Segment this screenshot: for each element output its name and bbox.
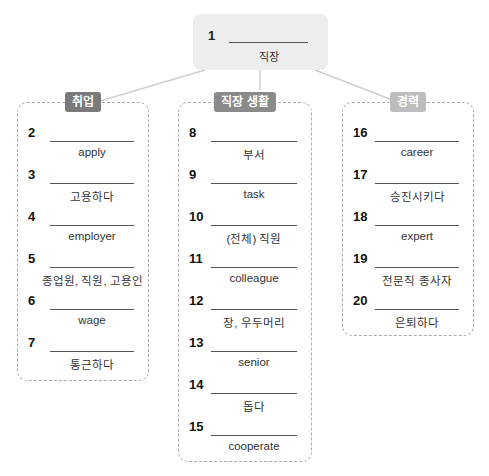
answer-blank[interactable] (211, 141, 297, 142)
vocab-item: 2 apply (18, 125, 148, 165)
item-hint: 전문직 종사자 (375, 272, 459, 288)
vocab-item: 6 wage (18, 293, 148, 333)
vocab-item: 11 colleague (179, 251, 311, 291)
item-number: 20 (353, 293, 367, 308)
item-number: 16 (353, 125, 367, 140)
item-number: 18 (353, 209, 367, 224)
item-number: 8 (189, 125, 196, 140)
answer-blank[interactable] (50, 309, 134, 310)
item-hint: wage (50, 314, 134, 326)
item-hint: 은퇴하다 (375, 314, 459, 330)
answer-blank[interactable] (211, 225, 297, 226)
vocab-item: 5 종업원, 직원, 고용인 (18, 251, 148, 291)
group-career: 경력 16 career 17 승진시키다 18 expert 19 전문직 종… (342, 102, 474, 336)
item-number: 9 (189, 167, 196, 182)
item-number: 7 (28, 335, 35, 350)
vocab-item: 12 장, 우두머리 (179, 293, 311, 333)
item-hint: career (375, 146, 459, 158)
answer-blank[interactable] (50, 183, 134, 184)
answer-blank[interactable] (375, 267, 459, 268)
item-number: 1 (208, 28, 215, 43)
item-hint: cooperate (211, 440, 297, 452)
vocab-item: 4 employer (18, 209, 148, 249)
answer-blank[interactable] (50, 225, 134, 226)
answer-blank[interactable] (50, 141, 134, 142)
vocab-item: 13 senior (179, 335, 311, 375)
item-number: 14 (189, 377, 203, 392)
vocab-item: 19 전문직 종사자 (343, 251, 473, 291)
answer-blank[interactable] (375, 141, 459, 142)
answer-blank[interactable] (50, 351, 134, 352)
vocab-item: 15 cooperate (179, 419, 311, 459)
answer-blank[interactable] (375, 225, 459, 226)
answer-blank[interactable] (229, 42, 308, 43)
item-number: 4 (28, 209, 35, 224)
item-hint: 통근하다 (50, 356, 134, 372)
item-hint: senior (211, 356, 297, 368)
vocab-item: 3 고용하다 (18, 167, 148, 207)
vocab-item: 18 expert (343, 209, 473, 249)
group-employment: 취업 2 apply 3 고용하다 4 employer 5 종업원, 직원, … (17, 102, 149, 381)
root-node-workplace: 1 직장 (193, 14, 328, 70)
answer-blank[interactable] (211, 267, 297, 268)
answer-blank[interactable] (211, 435, 297, 436)
item-number: 12 (189, 293, 203, 308)
item-number: 19 (353, 251, 367, 266)
item-number: 5 (28, 251, 35, 266)
item-hint: 직장 (229, 48, 308, 64)
vocab-item: 20 은퇴하다 (343, 293, 473, 333)
item-number: 11 (189, 251, 203, 266)
vocab-item: 14 돕다 (179, 377, 311, 417)
vocab-item: 9 task (179, 167, 311, 207)
group-label: 취업 (65, 92, 101, 112)
item-hint: apply (50, 146, 134, 158)
item-hint: 종업원, 직원, 고용인 (42, 272, 142, 288)
item-hint: task (211, 188, 297, 200)
item-hint: 고용하다 (50, 188, 134, 204)
answer-blank[interactable] (50, 267, 134, 268)
item-hint: expert (375, 230, 459, 242)
item-number: 6 (28, 293, 35, 308)
vocab-item: 10 (전체) 직원 (179, 209, 311, 249)
item-hint: 부서 (211, 146, 297, 162)
vocab-item: 16 career (343, 125, 473, 165)
item-hint: 승진시키다 (375, 188, 459, 204)
group-label: 직장 생활 (214, 92, 276, 112)
item-hint: employer (50, 230, 134, 242)
answer-blank[interactable] (211, 351, 297, 352)
item-hint: 돕다 (211, 398, 297, 414)
vocab-item: 7 통근하다 (18, 335, 148, 375)
answer-blank[interactable] (375, 183, 459, 184)
item-hint: 장, 우두머리 (211, 314, 297, 330)
group-work-life: 직장 생활 8 부서 9 task 10 (전체) 직원 11 colleagu… (178, 102, 312, 462)
answer-blank[interactable] (375, 309, 459, 310)
vocab-item: 17 승진시키다 (343, 167, 473, 207)
group-label: 경력 (390, 92, 426, 112)
vocab-item: 8 부서 (179, 125, 311, 165)
answer-blank[interactable] (211, 309, 297, 310)
item-number: 15 (189, 419, 203, 434)
item-hint: (전체) 직원 (211, 230, 297, 246)
item-number: 3 (28, 167, 35, 182)
item-hint: colleague (211, 272, 297, 284)
item-number: 10 (189, 209, 203, 224)
answer-blank[interactable] (211, 393, 297, 394)
answer-blank[interactable] (211, 183, 297, 184)
item-number: 13 (189, 335, 203, 350)
item-number: 17 (353, 167, 367, 182)
item-number: 2 (28, 125, 35, 140)
